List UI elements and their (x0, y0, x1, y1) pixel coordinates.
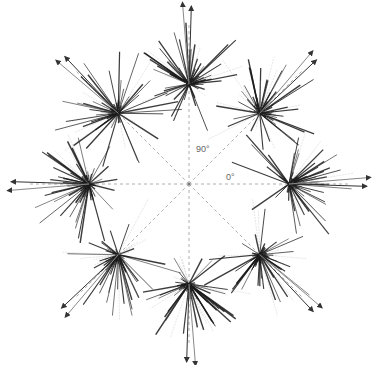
vector-line (118, 224, 129, 255)
mean-vector-arrow (62, 255, 119, 308)
vector-cluster-180 (7, 133, 117, 242)
vector-line (217, 103, 260, 114)
vector-cluster-45 (208, 51, 316, 150)
label-0-degrees: 0° (226, 172, 235, 182)
vector-line (118, 113, 158, 139)
mean-vector-arrow (65, 57, 118, 114)
vector-line (289, 184, 326, 221)
mean-vector-arrow (260, 60, 317, 113)
vector-cluster-90 (143, 2, 243, 130)
vector-line (228, 113, 260, 126)
vector-line (232, 162, 289, 184)
vector-line (260, 236, 303, 254)
vector-line (89, 146, 110, 184)
vector-cluster-270 (143, 256, 251, 365)
vector-line (260, 65, 287, 114)
vector-line (189, 256, 225, 284)
vector-line (252, 184, 289, 210)
vector-line (118, 113, 163, 114)
vector-line (54, 150, 89, 184)
vector-line (143, 84, 189, 102)
vector-line (118, 113, 137, 160)
vector-line (174, 258, 189, 284)
radial-plot-canvas (0, 0, 378, 365)
vector-cluster-0 (232, 133, 371, 234)
vector-line (74, 113, 119, 145)
mean-vector-arrow (260, 255, 313, 312)
guide-line-225 (76, 184, 189, 297)
vector-line (208, 113, 260, 139)
vector-line (189, 259, 202, 284)
vector-line (246, 135, 289, 184)
center-point (188, 183, 191, 186)
vector-line (231, 255, 259, 293)
vector-line (189, 284, 233, 316)
vector-line (118, 198, 148, 254)
label-90-degrees: 90° (196, 144, 210, 154)
vector-line (55, 113, 118, 130)
radial-plot: 90° 0° (0, 0, 378, 365)
vector-line (255, 234, 259, 254)
vector-line (118, 93, 167, 113)
